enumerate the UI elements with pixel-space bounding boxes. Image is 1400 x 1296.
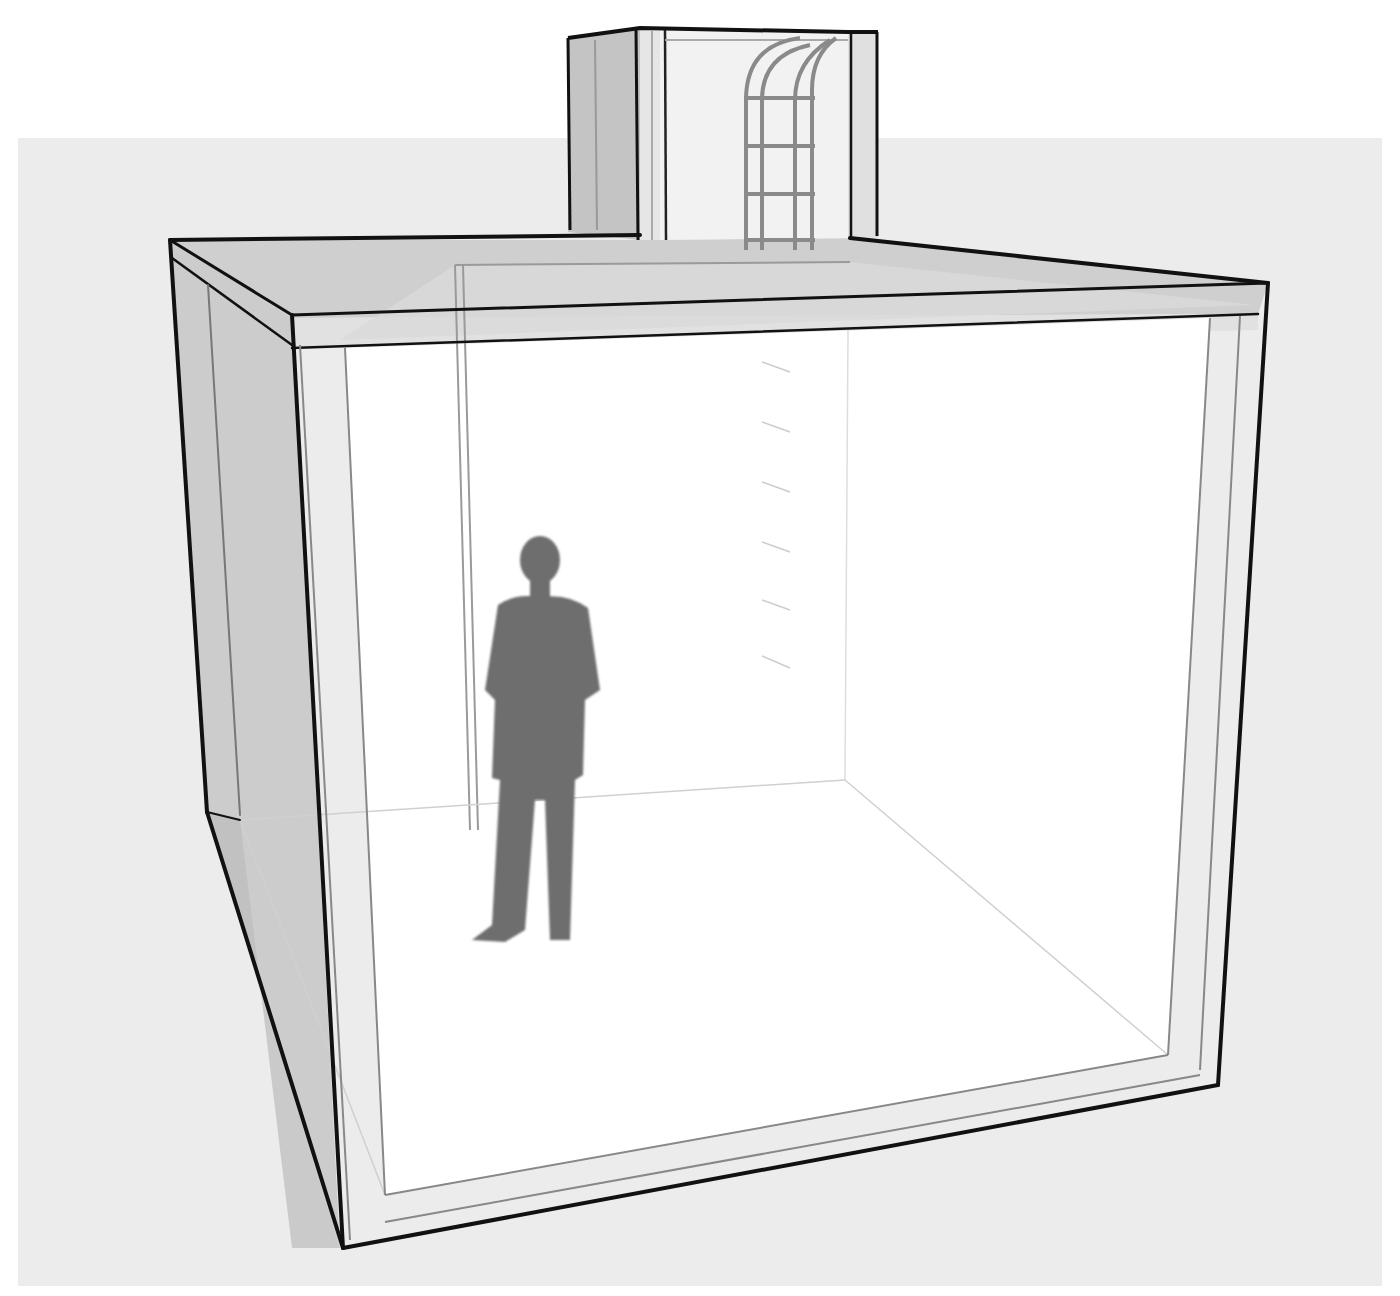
interior-space [345,318,1210,1195]
architectural-scene [0,0,1400,1296]
rooftop-enclosure [568,28,878,240]
